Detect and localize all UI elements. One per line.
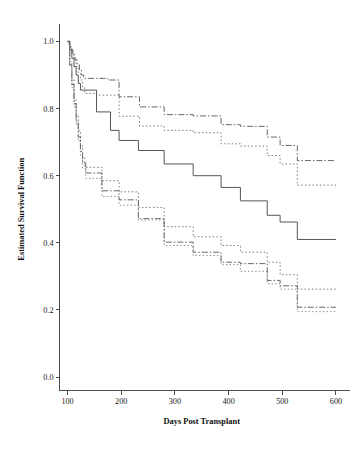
survival-plot-figure: 0.00.20.40.60.81.0100200300400500600Days… [0, 0, 354, 453]
survival-curve-upper-band-dashdot [68, 41, 336, 160]
y-axis-title: Estimated Survival Function [17, 157, 26, 260]
axes-group [56, 24, 350, 395]
survival-curve-center-estimate-solid [68, 41, 336, 239]
x-axis-title: Days Post Transplant [164, 417, 241, 426]
survival-curve-lower-band-dashdot [68, 41, 336, 307]
survival-curve-lower-band-dotted-lower [68, 41, 336, 311]
y-tick-label: 0.2 [43, 306, 53, 315]
survival-curve-upper-band-dotted [68, 41, 336, 185]
x-tick-label: 500 [276, 397, 288, 406]
labels-group: 0.00.20.40.60.81.0100200300400500600Days… [17, 37, 343, 425]
x-tick-label: 300 [169, 397, 181, 406]
y-tick-label: 1.0 [43, 37, 53, 46]
plot-canvas: 0.00.20.40.60.81.0100200300400500600Days… [0, 0, 354, 453]
y-tick-label: 0.4 [43, 239, 53, 248]
x-tick-label: 100 [61, 397, 73, 406]
y-tick-label: 0.0 [43, 373, 53, 382]
curves-group [68, 41, 336, 311]
x-tick-label: 200 [115, 397, 127, 406]
y-tick-label: 0.6 [43, 172, 53, 181]
x-tick-label: 400 [222, 397, 234, 406]
y-tick-label: 0.8 [43, 105, 53, 114]
x-tick-label: 600 [330, 397, 342, 406]
